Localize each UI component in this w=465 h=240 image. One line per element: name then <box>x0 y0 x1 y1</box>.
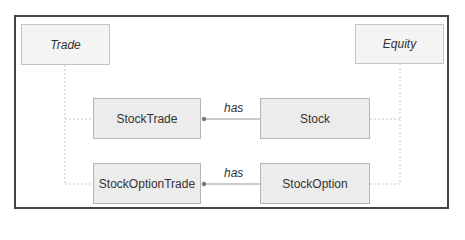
class-trade: Trade <box>21 24 110 65</box>
class-stock-option-label: StockOption <box>282 177 347 191</box>
class-trade-label: Trade <box>50 38 80 52</box>
has-label-top: has <box>224 101 243 115</box>
class-stock-trade-label: StockTrade <box>117 112 178 126</box>
class-equity-label: Equity <box>383 37 416 51</box>
class-stock-option-trade-label: StockOptionTrade <box>99 177 195 191</box>
class-stock-option: StockOption <box>260 163 370 204</box>
class-equity: Equity <box>355 24 444 64</box>
class-stock-trade: StockTrade <box>93 98 201 139</box>
class-stock: Stock <box>260 98 370 139</box>
has-label-bottom: has <box>224 166 243 180</box>
class-stock-option-trade: StockOptionTrade <box>93 163 201 204</box>
class-stock-label: Stock <box>300 112 330 126</box>
